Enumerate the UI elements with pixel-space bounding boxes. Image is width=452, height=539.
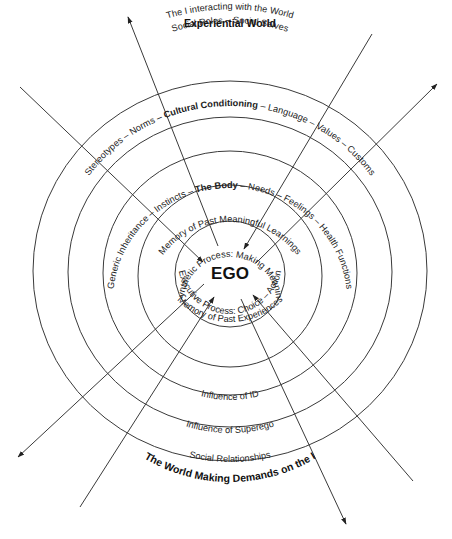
- arrow-out-bottom: [241, 299, 346, 524]
- center-ego-label: EGO: [211, 264, 249, 283]
- ego-concentric-diagram: Experiential World The I interacting wit…: [0, 0, 452, 539]
- ring-2-top-label: Stereotypes – Norms – Cultural Condition…: [83, 98, 378, 178]
- ring-5-top-label: Synthetic Process: Making Meaning: [0, 0, 284, 299]
- ring-2-bottom-label: Influence of Superego: [185, 419, 275, 436]
- ring-3-bottom-label: Influence of ID: [200, 388, 260, 402]
- arrow-out-lower-left: [18, 284, 204, 457]
- ring-1-bottom-label: Social Relationships: [189, 449, 272, 464]
- arrow-in-from-bottom-right: [253, 295, 413, 481]
